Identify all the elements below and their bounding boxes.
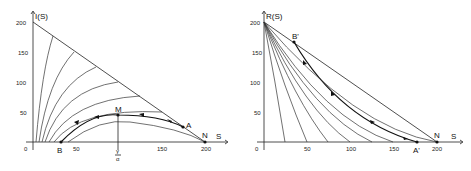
svg-text:100: 100	[346, 146, 357, 152]
label-b-prime: B'	[292, 32, 299, 41]
point-a	[181, 125, 184, 128]
label-a-prime: A'	[413, 146, 420, 155]
svg-text:200: 200	[16, 20, 27, 26]
label-n: N	[202, 131, 208, 140]
svg-text:50: 50	[254, 110, 261, 116]
svg-text:γ: γ	[116, 148, 119, 154]
svg-text:150: 150	[18, 50, 29, 56]
svg-text:200: 200	[250, 20, 261, 26]
svg-text:0: 0	[24, 146, 28, 152]
svg-text:200: 200	[201, 146, 212, 152]
svg-text:α: α	[116, 156, 120, 162]
label-m: M	[115, 105, 122, 114]
phase-diagrams: I(S) S M A N B 0 50 150 200 200 150 100 …	[0, 0, 471, 171]
point-a-prime	[415, 140, 418, 143]
svg-text:150: 150	[157, 146, 168, 152]
right-x-label: S	[451, 132, 456, 141]
point-b	[59, 140, 62, 143]
svg-text:50: 50	[73, 146, 80, 152]
left-y-label: I(S)	[35, 12, 48, 21]
label-b: B	[57, 146, 62, 155]
svg-text:150: 150	[252, 50, 263, 56]
svg-text:0: 0	[255, 146, 259, 152]
label-n-right: N	[434, 131, 440, 140]
svg-text:200: 200	[432, 146, 443, 152]
svg-text:100: 100	[250, 80, 261, 86]
left-boundary-line	[33, 22, 205, 142]
point-n-right	[435, 140, 438, 143]
right-y-label: R(S)	[266, 12, 283, 21]
point-n	[203, 140, 206, 143]
highlighted-trajectory-r	[294, 42, 417, 142]
svg-text:100: 100	[16, 80, 27, 86]
left-phase-plot: I(S) S M A N B 0 50 150 200 200 150 100 …	[16, 11, 228, 162]
svg-text:50: 50	[20, 110, 27, 116]
left-x-label: S	[216, 132, 221, 141]
highlighted-trajectory	[61, 115, 183, 142]
right-boundary-line	[264, 22, 437, 142]
svg-text:50: 50	[304, 146, 311, 152]
label-a: A	[186, 121, 192, 130]
right-phase-plot: R(S) S B' A' N 0 50 100 150 200 200 150 …	[250, 11, 463, 155]
svg-text:150: 150	[389, 146, 400, 152]
